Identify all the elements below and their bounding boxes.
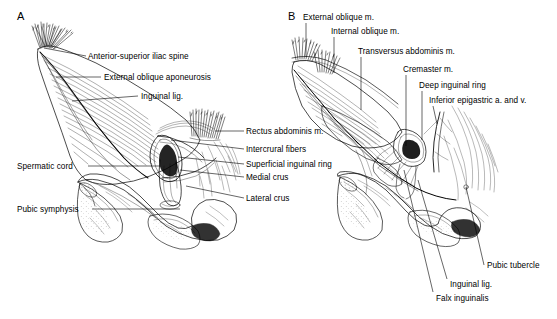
- label-external-oblique-aponeurosis: External oblique aponeurosis: [104, 74, 211, 82]
- label-intercrural-fibers: Intercrural fibers: [246, 146, 306, 154]
- label-external-oblique-m: External oblique m.: [303, 14, 374, 22]
- leader-inferior-epigastric-a-and-v: [433, 106, 437, 124]
- panel-letter-a: A: [17, 10, 25, 22]
- leader-inguinal-lig: [72, 96, 138, 101]
- label-cremaster-m: Cremaster m.: [403, 66, 453, 74]
- label-anterior-superior-iliac-spine: Anterior-superior iliac spine: [88, 53, 189, 61]
- label-inferior-epigastric-a-and-v: Inferior epigastric a. and v.: [429, 97, 526, 105]
- panel-a-cut-muscle-fibers: [32, 22, 73, 49]
- label-internal-oblique-m: Internal oblique m.: [331, 28, 399, 36]
- label-deep-inguinal-ring: Deep inguinal ring: [419, 82, 486, 90]
- panel-b-artwork: [292, 37, 498, 247]
- leader-anterior-superior-iliac-spine: [44, 48, 86, 56]
- leader-lateral-crus: [186, 186, 244, 198]
- anatomy-figure: A B Anterior-superior iliac spineExterna…: [0, 0, 557, 319]
- label-transversus-abdominis-m: Transversus abdominis m.: [358, 48, 455, 56]
- inferior-epigastric-vessels: [424, 112, 452, 172]
- leader-intercrural-fibers: [171, 140, 244, 149]
- panel-letter-b: B: [288, 10, 296, 22]
- rectus-abdominis-tuft-a: [190, 109, 225, 141]
- label-falx-inguinalis: Falx inguinalis: [436, 295, 489, 303]
- label-inguinal-lig-b: Inguinal lig.: [450, 281, 492, 289]
- panel-a-pelvic-bone: [77, 174, 237, 249]
- panel-b-lateral-fascia: [444, 106, 498, 200]
- label-spermatic-cord: Spermatic cord: [17, 163, 73, 171]
- inguinal-ligament-a: [40, 52, 148, 178]
- panel-b-pelvic-bone: [337, 172, 488, 247]
- leader-superficial-inguinal-ring: [178, 157, 244, 164]
- label-pubic-symphysis: Pubic symphysis: [17, 206, 79, 214]
- label-superficial-inguinal-ring: Superficial inguinal ring: [246, 161, 332, 169]
- leader-lines: [44, 23, 484, 292]
- label-inguinal-lig: Inguinal lig.: [141, 93, 183, 101]
- panel-b-cut-fibers-upper: [292, 37, 340, 74]
- label-medial-crus: Medial crus: [246, 174, 288, 182]
- label-lateral-crus: Lateral crus: [246, 195, 289, 203]
- label-rectus-abdominis-m: Rectus abdominis m.: [246, 128, 323, 136]
- label-pubic-tubercle: Pubic tubercle: [487, 262, 540, 270]
